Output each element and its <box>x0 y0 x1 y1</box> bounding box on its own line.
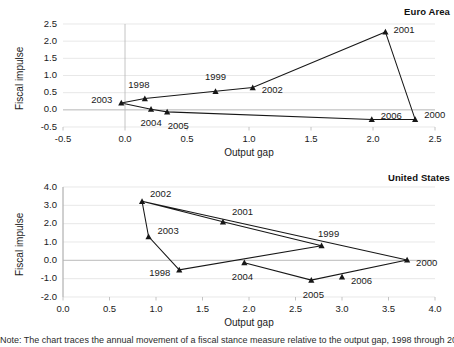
data-point-label: 2001 <box>393 24 414 35</box>
y-tick-label: 2.0 <box>15 217 57 228</box>
data-point-label: 2004 <box>232 271 253 282</box>
y-tick-label: 1.0 <box>15 236 57 247</box>
data-point-label: 1999 <box>205 71 226 82</box>
y-tick-label: 0.5 <box>15 86 57 97</box>
x-tick-label: 0.0 <box>38 303 88 314</box>
euro-area-chart: Euro Area Fiscal impulse Output gap -0.5… <box>0 0 454 172</box>
x-tick-label: 1.5 <box>286 133 336 144</box>
x-tick-label: 1.0 <box>131 303 181 314</box>
y-tick-label: 1.0 <box>15 69 57 80</box>
data-point-label: 2003 <box>91 94 112 105</box>
x-tick-label: 1.0 <box>224 133 274 144</box>
data-point-label: 2000 <box>424 109 445 120</box>
y-tick-label: 2.5 <box>15 18 57 29</box>
y-tick-label: 2.0 <box>15 35 57 46</box>
x-tick-label: 3.0 <box>317 303 367 314</box>
data-point-label: 2000 <box>416 257 437 268</box>
y-tick-label: -2.0 <box>15 291 57 302</box>
y-tick-label: -1.0 <box>15 272 57 283</box>
data-point-label: 2006 <box>351 275 372 286</box>
x-tick-label: 0.5 <box>162 133 212 144</box>
data-point-label: 2003 <box>158 225 179 236</box>
data-point-label: 2004 <box>141 117 162 128</box>
x-tick-label: 3.5 <box>364 303 414 314</box>
x-tick-label: 2.5 <box>271 303 321 314</box>
data-point-label: 1998 <box>128 79 149 90</box>
data-point-label: 2005 <box>303 289 324 300</box>
x-tick-label: 1.5 <box>178 303 228 314</box>
euro-area-plot <box>0 0 454 172</box>
data-point-label: 2002 <box>262 84 283 95</box>
data-point-label: 1998 <box>149 267 170 278</box>
data-point-label: 2001 <box>232 206 253 217</box>
y-tick-label: 0.0 <box>15 254 57 265</box>
x-tick-label: 2.0 <box>224 303 274 314</box>
x-tick-label: 2.5 <box>410 133 454 144</box>
data-point-label: 2006 <box>381 110 402 121</box>
united-states-chart: United States Fiscal impulse Output gap … <box>0 172 454 327</box>
y-tick-label: 3.0 <box>15 199 57 210</box>
y-tick-label: 0.0 <box>15 103 57 114</box>
x-tick-label: 0.0 <box>100 133 150 144</box>
x-tick-label: 0.5 <box>85 303 135 314</box>
y-tick-label: 4.0 <box>15 181 57 192</box>
data-point-label: 2005 <box>168 120 189 131</box>
x-tick-label: 2.0 <box>348 133 398 144</box>
figure-footnote: Note: The chart traces the annual moveme… <box>0 335 454 345</box>
y-tick-label: 1.5 <box>15 52 57 63</box>
data-point-label: 2002 <box>150 188 171 199</box>
x-tick-label: -0.5 <box>38 133 88 144</box>
data-point-label: 1999 <box>318 228 339 239</box>
x-tick-label: 4.0 <box>410 303 454 314</box>
y-tick-label: -0.5 <box>15 121 57 132</box>
